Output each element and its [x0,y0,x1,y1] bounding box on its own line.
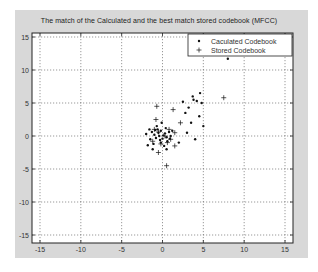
data-point [148,128,150,130]
data-point [152,148,154,150]
data-point [196,100,198,102]
x-tick-label: 0 [161,246,165,253]
x-tick-label: 10 [240,246,248,253]
data-point [192,99,194,101]
data-point [161,137,163,139]
data-point [149,138,151,140]
x-tick-label: -5 [119,246,125,253]
data-point [165,127,167,129]
data-point [160,122,162,124]
y-tick-label: -15 [19,232,29,239]
data-point [227,58,229,60]
x-tick-label: -10 [76,246,86,253]
x-tick-label: 5 [201,246,205,253]
y-tick-label: -5 [23,166,29,173]
data-point [201,102,203,104]
legend-dot-icon [198,40,200,42]
data-point [202,125,204,127]
data-point [187,106,189,108]
data-point [159,139,161,141]
x-tick-label: 15 [281,246,289,253]
data-point [184,112,186,114]
scatter-plot: -15-10-5051015-15-10-5051015Caculated Co… [0,0,318,272]
data-point [190,122,192,124]
data-point [192,95,194,97]
data-point [158,135,160,137]
data-point [155,137,157,139]
y-tick-label: 0 [25,133,29,140]
data-point [178,141,180,143]
data-point [198,115,200,117]
legend: Caculated CodebookStored Codebook [188,34,292,56]
data-point [171,130,173,132]
data-point [165,136,167,138]
y-tick-label: 5 [25,100,29,107]
data-point [165,148,167,150]
data-point [156,125,158,127]
legend-label-calculated: Caculated Codebook [211,38,277,45]
y-tick-label: -10 [19,199,29,206]
y-tick-label: 15 [21,34,29,41]
x-tick-label: -15 [35,246,45,253]
data-point [182,100,184,102]
data-point [186,132,188,134]
data-point [145,133,147,135]
data-point [147,144,149,146]
y-tick-label: 10 [21,67,29,74]
legend-label-stored: Stored Codebook [211,47,266,54]
data-point [163,145,165,147]
data-point [194,138,196,140]
data-point [153,133,155,135]
data-point [160,130,162,132]
data-point [151,131,153,133]
data-point [199,92,201,94]
